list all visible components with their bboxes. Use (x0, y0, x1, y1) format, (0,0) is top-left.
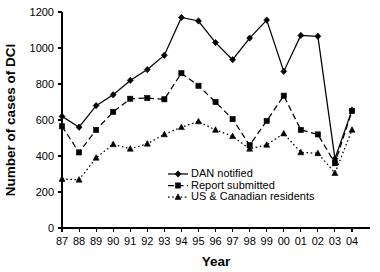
data-point (94, 127, 99, 132)
x-tick-label: 98 (244, 235, 256, 247)
legend-marker (175, 194, 181, 200)
data-point (59, 113, 65, 119)
data-point (76, 177, 82, 183)
legend-item: US & Canadian residents (168, 190, 315, 202)
data-point (281, 93, 286, 98)
series-line (62, 73, 352, 163)
x-tick-label: 99 (261, 235, 273, 247)
x-tick-label: 88 (73, 235, 85, 247)
data-point (349, 127, 355, 133)
data-point (332, 161, 337, 166)
data-point (59, 176, 65, 182)
legend-item: DAN notified (168, 167, 253, 179)
x-tick-label: 95 (192, 235, 204, 247)
x-tick-label: 87 (56, 235, 68, 247)
data-point (145, 95, 150, 100)
data-point (230, 117, 235, 122)
y-axis-title: Number of cases of DCI (3, 44, 18, 196)
data-point (59, 124, 64, 129)
x-tick-label: 96 (209, 235, 221, 247)
data-point (196, 83, 201, 88)
x-tick-label: 92 (141, 235, 153, 247)
data-point (111, 109, 116, 114)
x-tick-label: 89 (90, 235, 102, 247)
data-point (195, 118, 201, 124)
data-point (349, 108, 354, 113)
data-point (298, 32, 304, 38)
x-tick-label: 03 (329, 235, 341, 247)
x-tick-label: 91 (124, 235, 136, 247)
data-point (178, 14, 184, 20)
legend-label: US & Canadian residents (191, 190, 315, 202)
data-point (213, 99, 218, 104)
x-tick-label: 02 (312, 235, 324, 247)
y-tick-label: 0 (48, 222, 54, 234)
data-point (128, 96, 133, 101)
data-point (213, 127, 219, 133)
series-1 (59, 14, 355, 162)
data-point (281, 130, 287, 136)
x-tick-label: 00 (278, 235, 290, 247)
legend-marker (175, 183, 180, 188)
data-point (264, 118, 269, 123)
x-axis: 878889909192939495969798990001020304 (56, 228, 370, 247)
line-chart: 020040060080010001200 878889909192939495… (0, 0, 380, 272)
chart-legend: DAN notifiedReport submittedUS & Canadia… (168, 167, 315, 202)
y-tick-label: 200 (36, 186, 54, 198)
series-line (62, 17, 352, 158)
legend-marker (175, 171, 181, 177)
x-tick-label: 01 (295, 235, 307, 247)
data-point (161, 131, 167, 137)
data-point (264, 142, 270, 148)
y-tick-label: 800 (36, 78, 54, 90)
x-tick-label: 90 (107, 235, 119, 247)
legend-label: DAN notified (191, 167, 253, 179)
series-layer (59, 14, 355, 182)
x-axis-title: Year (202, 254, 231, 269)
data-point (162, 97, 167, 102)
data-point (93, 155, 99, 161)
data-point (110, 141, 116, 147)
data-point (144, 141, 150, 147)
data-point (127, 146, 133, 152)
data-point (179, 71, 184, 76)
legend-item: Report submitted (168, 179, 275, 191)
data-point (230, 133, 236, 139)
data-point (298, 127, 303, 132)
data-point (281, 68, 287, 74)
x-tick-label: 97 (226, 235, 238, 247)
data-point (315, 132, 320, 137)
x-tick-label: 93 (158, 235, 170, 247)
y-tick-label: 400 (36, 150, 54, 162)
y-tick-label: 1200 (30, 6, 54, 18)
y-tick-label: 600 (36, 114, 54, 126)
chart-figure: 020040060080010001200 878889909192939495… (0, 0, 380, 272)
data-point (178, 124, 184, 130)
data-point (315, 33, 321, 39)
x-tick-label: 04 (346, 235, 358, 247)
y-axis: 020040060080010001200 (30, 6, 62, 234)
y-tick-label: 1000 (30, 42, 54, 54)
x-tick-label: 94 (175, 235, 187, 247)
data-point (76, 150, 81, 155)
legend-label: Report submitted (191, 179, 275, 191)
